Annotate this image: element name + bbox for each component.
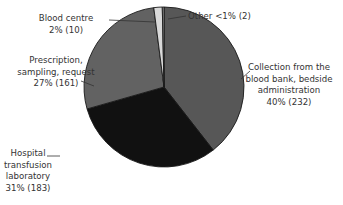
- slice-label-4: Other <1% (2): [188, 11, 251, 21]
- slice-label-line: 40% (232): [267, 97, 312, 107]
- slice-label-line: sampling, request: [17, 67, 95, 77]
- pie-slices: [84, 7, 244, 167]
- slice-label-line: Collection from the: [248, 62, 330, 72]
- slice-label-line: transfusion: [4, 160, 52, 170]
- slice-label-line: Hospital: [10, 148, 45, 158]
- pie-chart: Collection from theblood bank, bedsidead…: [0, 0, 343, 205]
- slice-label-0: Collection from theblood bank, bedsidead…: [246, 62, 333, 107]
- slice-label-line: blood bank, bedside: [246, 74, 333, 84]
- slice-label-3: Blood centre2% (10): [39, 13, 93, 35]
- slice-label-line: 2% (10): [49, 25, 83, 35]
- slice-label-line: Blood centre: [39, 13, 93, 23]
- slice-label-line: administration: [258, 85, 320, 95]
- slice-label-line: Prescription,: [29, 55, 82, 65]
- slice-label-line: 31% (183): [6, 183, 51, 193]
- slice-label-1: Hospitaltransfusionlaboratory31% (183): [4, 148, 52, 193]
- slice-label-2: Prescription,sampling, request27% (161): [17, 55, 95, 88]
- slice-label-line: Other <1% (2): [188, 11, 251, 21]
- slice-label-line: laboratory: [6, 171, 50, 181]
- slice-label-line: 27% (161): [34, 78, 79, 88]
